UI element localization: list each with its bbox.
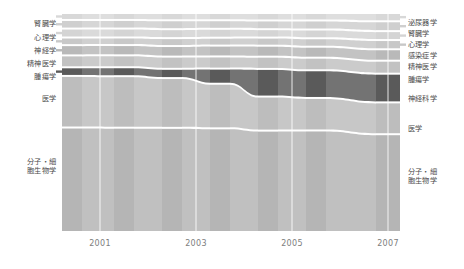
right-node-label: 神経科学	[408, 95, 437, 104]
left-node-label: 医学	[42, 95, 56, 104]
left-node-label: 腎臓学	[34, 20, 56, 29]
alluvial-canvas	[0, 0, 464, 269]
right-node-label: 泌尿器学	[408, 19, 437, 28]
year-tick-label: 2003	[185, 239, 207, 248]
right-node-label: 感染症学	[408, 52, 437, 61]
right-node-label: 医学	[408, 125, 422, 134]
right-node-label: 精神医学	[408, 63, 437, 72]
right-node-label: 分子・細 胞生物学	[408, 167, 437, 185]
alluvial-chart-figure: 腎臓学心理学神経学精神医学腫瘍学医学分子・細 胞生物学 泌尿器学腎臓学心理学感染…	[0, 0, 464, 269]
left-node-label: 神経学	[34, 47, 56, 56]
left-node-label: 腫瘍学	[34, 73, 56, 82]
year-tick-label: 2007	[377, 239, 399, 248]
left-node-label: 分子・細 胞生物学	[27, 157, 56, 175]
left-node-label: 精神医学	[27, 60, 56, 69]
right-node-label: 腎臓学	[408, 30, 430, 39]
left-node-label: 心理学	[34, 34, 56, 43]
right-node-label: 心理学	[408, 41, 430, 50]
year-tick-label: 2005	[281, 239, 303, 248]
right-node-label: 腫瘍学	[408, 76, 430, 85]
year-tick-label: 2001	[89, 239, 111, 248]
